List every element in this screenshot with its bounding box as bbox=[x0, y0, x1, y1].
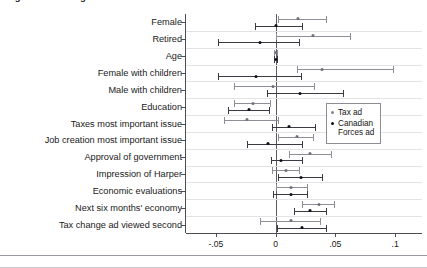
data-point bbox=[298, 92, 301, 95]
data-point bbox=[311, 34, 314, 37]
y-axis-tick bbox=[181, 56, 185, 57]
interval-cap bbox=[234, 100, 235, 107]
confidence-interval bbox=[234, 103, 271, 104]
gridline bbox=[186, 98, 422, 99]
y-axis-tick bbox=[181, 157, 185, 158]
confidence-interval bbox=[267, 93, 343, 94]
y-axis-tick-label: Next six months' economy bbox=[75, 203, 182, 213]
x-axis-tick bbox=[276, 233, 277, 237]
interval-cap bbox=[302, 157, 303, 164]
interval-bar bbox=[271, 160, 303, 161]
interval-cap bbox=[313, 134, 314, 141]
interval-cap bbox=[307, 191, 308, 198]
interval-cap bbox=[299, 39, 300, 46]
interval-cap bbox=[276, 184, 277, 191]
gridline bbox=[186, 65, 422, 66]
y-axis-tick bbox=[181, 90, 185, 91]
confidence-interval bbox=[224, 120, 279, 121]
interval-bar bbox=[218, 76, 302, 77]
confidence-interval bbox=[274, 59, 278, 60]
interval-cap bbox=[234, 83, 235, 90]
confidence-interval bbox=[276, 36, 351, 37]
y-axis-tick bbox=[181, 22, 185, 23]
x-axis-tick-label: .05 bbox=[329, 239, 341, 249]
x-axis bbox=[186, 233, 422, 234]
legend-label: Tax ad bbox=[338, 108, 362, 118]
y-axis-tick bbox=[181, 208, 185, 209]
confidence-interval bbox=[277, 228, 327, 229]
gridline bbox=[186, 115, 422, 116]
confidence-interval bbox=[274, 53, 278, 54]
confidence-interval bbox=[294, 211, 327, 212]
data-point bbox=[290, 186, 293, 189]
y-axis-tick bbox=[181, 39, 185, 40]
interval-cap bbox=[272, 167, 273, 174]
x-axis-tick bbox=[216, 233, 217, 237]
confidence-interval bbox=[247, 144, 303, 145]
interval-bar bbox=[272, 127, 316, 128]
y-axis-tick-label: Female bbox=[151, 17, 182, 27]
data-point bbox=[290, 193, 293, 196]
y-axis-tick-label: Education bbox=[141, 102, 182, 112]
interval-cap bbox=[247, 141, 248, 148]
interval-cap bbox=[302, 141, 303, 148]
interval-cap bbox=[272, 124, 273, 131]
gridline bbox=[186, 132, 422, 133]
data-point bbox=[309, 152, 312, 155]
interval-cap bbox=[218, 39, 219, 46]
data-point bbox=[259, 41, 262, 44]
data-point bbox=[285, 169, 288, 172]
data-point bbox=[317, 203, 320, 206]
y-axis-tick-label: Approval of government bbox=[84, 152, 182, 162]
data-point bbox=[245, 118, 248, 121]
interval-bar bbox=[278, 19, 327, 20]
gridline bbox=[186, 149, 422, 150]
interval-cap bbox=[289, 151, 290, 158]
interval-cap bbox=[343, 90, 344, 97]
y-axis-tick-label: Age bbox=[166, 51, 182, 61]
interval-cap bbox=[228, 107, 229, 114]
interval-cap bbox=[331, 151, 332, 158]
confidence-interval bbox=[255, 26, 303, 27]
chart-figure: Figure 3. Heterogeneous treatment effect… bbox=[0, 0, 427, 268]
interval-cap bbox=[224, 117, 225, 124]
x-axis-tick-label: 0 bbox=[273, 239, 278, 249]
gridline bbox=[186, 81, 422, 82]
interval-cap bbox=[393, 66, 394, 73]
interval-cap bbox=[276, 33, 277, 40]
gridline bbox=[186, 166, 422, 167]
data-point bbox=[251, 102, 254, 105]
confidence-interval bbox=[276, 187, 308, 188]
gridline bbox=[186, 216, 422, 217]
confidence-interval bbox=[234, 86, 315, 87]
y-axis-tick-label: Economic evaluations bbox=[93, 186, 182, 196]
interval-bar bbox=[255, 26, 303, 27]
y-axis-tick bbox=[181, 73, 185, 74]
confidence-interval bbox=[302, 204, 335, 205]
interval-cap bbox=[334, 201, 335, 208]
y-axis-tick bbox=[181, 174, 185, 175]
interval-cap bbox=[278, 134, 279, 141]
y-axis-tick bbox=[181, 140, 185, 141]
y-axis-tick-label: Male with children bbox=[108, 85, 182, 95]
y-axis-tick-label: Job creation most important issue bbox=[45, 135, 182, 145]
interval-cap bbox=[299, 167, 300, 174]
confidence-interval bbox=[218, 42, 299, 43]
data-point bbox=[287, 125, 290, 128]
confidence-interval bbox=[271, 160, 303, 161]
interval-cap bbox=[278, 174, 279, 181]
interval-cap bbox=[322, 174, 323, 181]
legend-item-tax-ad: Tax ad bbox=[331, 108, 374, 118]
legend-marker-icon bbox=[331, 111, 334, 114]
data-point bbox=[272, 85, 275, 88]
y-axis-tick-label: Retired bbox=[152, 34, 182, 44]
interval-cap bbox=[294, 208, 295, 215]
data-point bbox=[275, 51, 278, 54]
y-axis-tick bbox=[181, 124, 185, 125]
interval-cap bbox=[315, 124, 316, 131]
y-axis-tick-label: Tax change ad viewed second bbox=[59, 220, 182, 230]
data-point bbox=[274, 24, 277, 27]
x-axis-tick bbox=[395, 233, 396, 237]
interval-bar bbox=[297, 69, 394, 70]
interval-cap bbox=[326, 208, 327, 215]
